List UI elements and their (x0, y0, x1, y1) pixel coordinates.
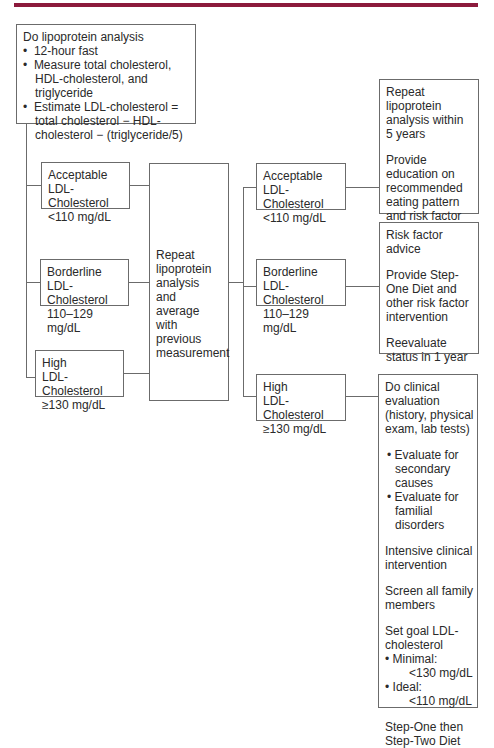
eval-bullet: • Evaluate for familial disorders (385, 490, 475, 532)
connector-line (346, 396, 380, 397)
connector-line (229, 282, 243, 283)
action-borderline-box: Risk factor advice Provide Step-One Diet… (379, 222, 479, 354)
goal-minimal-value: <130 mg/dL (385, 666, 475, 680)
measure-label: LDL-Cholesterol (48, 182, 123, 210)
connector-line (346, 187, 380, 188)
start-bullet: • Estimate LDL-cholesterol = total chole… (23, 100, 189, 142)
measure-label: LDL-Cholesterol (263, 394, 339, 422)
measure-label: LDL-Cholesterol (263, 183, 339, 211)
category-label: Acceptable (263, 169, 339, 183)
connector-line (346, 286, 380, 287)
range-label: ≥130 mg/dL (263, 422, 339, 436)
goal-ideal-value: <110 mg/dL (385, 694, 475, 708)
eval-bullet: • Evaluate for secondary causes (385, 448, 475, 490)
connector-line (26, 185, 42, 186)
start-bullet: • 12-hour fast (23, 44, 189, 58)
action-text: Screen all family members (385, 584, 475, 612)
connector-line (130, 185, 150, 186)
action-text: Step-One then Step-Two Diet (385, 720, 475, 748)
connector-line (243, 187, 257, 188)
range-label: 110–129 mg/dL (263, 307, 339, 335)
first-high-box: High LDL-Cholesterol ≥130 mg/dL (35, 350, 124, 397)
connector-line (243, 187, 244, 396)
connector-line (129, 282, 150, 283)
second-high-box: High LDL-Cholesterol ≥130 mg/dL (256, 374, 346, 421)
connector-line (124, 373, 150, 374)
repeat-analysis-text: Repeat lipoprotein analysis and average … (156, 248, 222, 360)
action-text: Provide Step-One Diet and other risk fac… (386, 268, 472, 324)
category-label: High (263, 380, 339, 394)
action-text: Risk factor advice (386, 228, 472, 256)
action-acceptable-box: Repeat lipoprotein analysis within 5 yea… (379, 79, 479, 214)
range-label: <110 mg/dL (48, 210, 123, 224)
action-text: Do clinical evaluation (history, physica… (385, 380, 475, 436)
action-high-box: Do clinical evaluation (history, physica… (378, 374, 478, 708)
category-label: Borderline (47, 265, 122, 279)
start-box-lipoprotein-analysis: Do lipoprotein analysis • 12-hour fast •… (16, 24, 196, 124)
header-accent-bar (14, 3, 478, 7)
first-borderline-box: Borderline LDL-Cholesterol 110–129 mg/dL (40, 259, 129, 306)
goal-title: Set goal LDL-cholesterol (385, 624, 475, 652)
connector-line (26, 282, 40, 283)
measure-label: LDL-Cholesterol (42, 370, 117, 398)
measure-label: LDL-Cholesterol (263, 279, 339, 307)
range-label: ≥130 mg/dL (42, 398, 117, 412)
second-borderline-box: Borderline LDL-Cholesterol 110–129 mg/dL (256, 259, 346, 306)
goal-minimal: • Minimal: (385, 652, 475, 666)
range-label: 110–129 mg/dL (47, 307, 122, 335)
connector-line (243, 286, 257, 287)
action-text: Intensive clinical intervention (385, 544, 475, 572)
action-text: Repeat lipoprotein analysis within 5 yea… (386, 85, 472, 141)
category-label: High (42, 356, 117, 370)
connector-line (243, 396, 257, 397)
second-acceptable-box: Acceptable LDL-Cholesterol <110 mg/dL (256, 163, 346, 210)
range-label: <110 mg/dL (263, 211, 339, 225)
category-label: Acceptable (48, 168, 123, 182)
first-acceptable-box: Acceptable LDL-Cholesterol <110 mg/dL (41, 162, 130, 209)
action-text: Reevaluate status in 1 year (386, 336, 472, 364)
start-bullet: • Measure total cholesterol, HDL-cholest… (23, 58, 189, 100)
start-title: Do lipoprotein analysis (23, 30, 189, 44)
connector-line (26, 124, 27, 377)
repeat-analysis-box: Repeat lipoprotein analysis and average … (149, 163, 229, 401)
category-label: Borderline (263, 265, 339, 279)
goal-ideal: • Ideal: (385, 680, 475, 694)
measure-label: LDL-Cholesterol (47, 279, 122, 307)
